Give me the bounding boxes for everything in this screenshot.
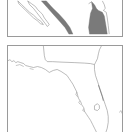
inset-map-graphic xyxy=(8,0,122,36)
inset-map-panel xyxy=(7,0,123,37)
inset-island-outline xyxy=(18,1,44,25)
lake-okeechobee xyxy=(94,104,99,111)
florida-atlantic-coast xyxy=(94,65,108,132)
florida-map-graphic xyxy=(8,46,122,132)
coastal-detail xyxy=(76,92,85,112)
inset-shaded-lagoon xyxy=(89,2,108,34)
east-coast-lagoon xyxy=(98,85,103,101)
florida-coastline xyxy=(8,60,98,132)
florida-map-panel xyxy=(7,45,123,132)
inset-shaded-strip xyxy=(41,1,72,34)
offshore-island xyxy=(119,111,122,114)
state-boundary xyxy=(43,46,101,65)
